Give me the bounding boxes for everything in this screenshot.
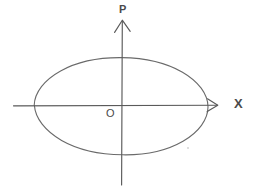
diagram-svg: [0, 0, 264, 195]
x-axis-group: [14, 99, 218, 112]
x-axis-label: X: [234, 97, 243, 110]
scan-speck: [187, 147, 189, 149]
origin-label: O: [106, 108, 115, 119]
p-axis-line: [122, 21, 123, 185]
diagram-canvas: P X O: [0, 0, 264, 195]
p-axis-label: P: [119, 4, 126, 15]
p-axis-group: [115, 20, 131, 185]
x-axis-line: [14, 105, 218, 106]
